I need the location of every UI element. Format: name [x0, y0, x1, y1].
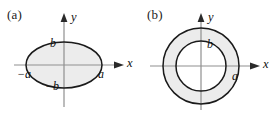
panel-a-y-axis-label: y [71, 11, 77, 24]
panel-b-outer-radius-label: a [232, 70, 238, 82]
panel-b-y-axis-label: y [208, 11, 214, 24]
panel-b-inner-radius-label: b [207, 38, 213, 50]
y-axis-arrow [61, 13, 68, 22]
panel-b-plot [136, 0, 273, 117]
panel-b-x-axis-label: x [263, 58, 269, 71]
panel-a-ellipse: (a) b −b −a a y x [0, 0, 137, 117]
panel-b-annulus: (b) b a y x [136, 0, 273, 117]
panel-a-tick-label-a: a [98, 68, 104, 80]
panel-a-x-axis-label: x [127, 57, 133, 70]
panel-a-tick-label-b: b [50, 37, 56, 49]
figure-container: (a) b −b −a a y x (b) [0, 0, 273, 117]
x-axis-arrow [114, 61, 124, 68]
annulus-fill [136, 0, 273, 117]
panel-a-plot [0, 0, 137, 117]
panel-a-tick-label-negative-b: −b [45, 80, 59, 92]
panel-a-tick-label-negative-a: −a [17, 68, 31, 80]
